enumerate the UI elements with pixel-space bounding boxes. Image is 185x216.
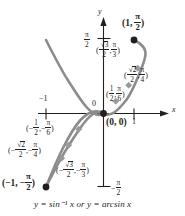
y-tick-negpi-num: π — [116, 179, 122, 187]
label-point-neg-sqrt2-2: (−√√222,−π4) — [8, 141, 41, 158]
x-den-s2: 2 — [127, 76, 138, 84]
paren-close-h: ) — [122, 90, 125, 99]
paren-close-p1: ) — [141, 18, 144, 28]
label-point-sqrt3-2: (√√332,π3) — [96, 41, 120, 58]
y-den-n1: 2 — [25, 183, 32, 192]
y-axis-label: y — [98, 8, 102, 16]
label-point-sqrt2-2: (√√222,π4) — [124, 66, 148, 83]
paren-close-n1: ) — [32, 178, 35, 188]
x-axis-label: x — [172, 106, 176, 114]
y-tick-pi-den: 2 — [84, 41, 90, 49]
endpoint-dot-1 — [131, 37, 138, 44]
label-point-neg-sqrt3-2: (−√√332,−π3) — [56, 161, 89, 178]
x-den-s3: 2 — [99, 51, 110, 59]
y-num-n1: π — [25, 172, 32, 181]
x-text-n1: −1, — [5, 178, 18, 188]
x-text-p1: 1, — [125, 18, 132, 28]
y-den-p1: 2 — [134, 23, 141, 32]
x-num-ns2: √√22 — [15, 141, 26, 149]
x-num-ns3: √√33 — [63, 161, 74, 169]
arcsin-graph-figure: −1 1 π2 −π2 y x (1, π2) (√√332,π3) (√√22… — [0, 0, 185, 216]
x-tick-label-1: 1 — [132, 118, 136, 126]
origin-zero-label: 0 — [92, 100, 96, 108]
figure-caption: y = sin⁻¹ x or y = arcsin x — [34, 199, 131, 209]
x-tick-label-neg1: −1 — [39, 95, 48, 103]
label-point-neg-1: (−1, −π2) — [2, 172, 35, 192]
paren-close-nh: ) — [51, 124, 54, 133]
x-den-ns3: 2 — [63, 171, 74, 179]
x-den-ns2: 2 — [15, 151, 26, 159]
origin-dot — [100, 110, 107, 117]
y-num-p1: π — [134, 12, 141, 21]
paren-close-ns3: ) — [86, 166, 89, 175]
endpoint-dot-neg-1 — [43, 184, 50, 191]
y-tick-pi-num: π — [84, 31, 90, 39]
label-origin: (0, 0) — [106, 118, 127, 128]
paren-close-ns2: ) — [38, 146, 41, 155]
label-point-neg-half: (−12,−π6) — [26, 119, 54, 136]
label-point-1: (1, π2) — [122, 12, 144, 32]
y-tick-label-neg-pi-over-2: −π2 — [111, 179, 121, 196]
label-point-half: (12,π6) — [106, 85, 125, 102]
paren-close-s2: ) — [145, 71, 148, 80]
paren-close-s3: ) — [117, 46, 120, 55]
x-num-s2: √√22 — [127, 66, 138, 74]
y-tick-negpi-den: 2 — [116, 189, 122, 197]
x-num-s3: √√33 — [99, 41, 110, 49]
y-tick-label-pi-over-2: π2 — [84, 31, 90, 48]
